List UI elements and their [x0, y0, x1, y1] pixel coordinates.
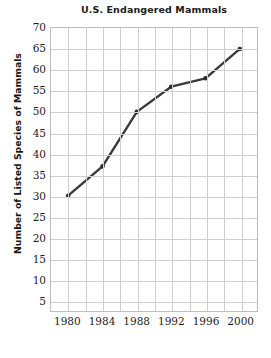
- gridline-vertical: [120, 28, 121, 311]
- y-axis-tick-label: 70: [2, 22, 46, 33]
- y-axis-tick-label: 50: [2, 106, 46, 117]
- gridline-horizontal: [51, 49, 257, 50]
- gridline-vertical: [207, 28, 208, 311]
- y-axis-tick-label: 55: [2, 85, 46, 96]
- gridline-horizontal: [51, 218, 257, 219]
- gridline-vertical: [86, 28, 87, 311]
- gridline-horizontal: [51, 260, 257, 261]
- gridline-horizontal: [51, 155, 257, 156]
- gridline-horizontal: [51, 239, 257, 240]
- gridline-vertical: [242, 28, 243, 311]
- gridline-horizontal: [51, 197, 257, 198]
- y-axis-tick-label: 45: [2, 128, 46, 139]
- gridline-horizontal: [51, 70, 257, 71]
- chart-title: U.S. Endangered Mammals: [50, 4, 258, 15]
- gridline-vertical: [190, 28, 191, 311]
- plot-area: 1980: 301984: 371988: 501992: 561996: 58…: [50, 27, 258, 312]
- y-axis-tick-label: 35: [2, 170, 46, 181]
- y-axis-tick-label: 10: [2, 275, 46, 286]
- gridline-vertical: [224, 28, 225, 311]
- y-axis-tick-label: 25: [2, 212, 46, 223]
- gridline-vertical: [68, 28, 69, 311]
- gridline-horizontal: [51, 176, 257, 177]
- gridline-vertical: [138, 28, 139, 311]
- gridline-horizontal: [51, 91, 257, 92]
- y-axis-tick-label: 20: [2, 233, 46, 244]
- y-axis-tick-label: 60: [2, 64, 46, 75]
- gridline-vertical: [155, 28, 156, 311]
- chart-page: U.S. Endangered Mammals Number of Listed…: [0, 0, 271, 358]
- y-axis-tick-label: 30: [2, 191, 46, 202]
- gridline-vertical: [103, 28, 104, 311]
- gridline-horizontal: [51, 302, 257, 303]
- y-axis-tick-label: 40: [2, 149, 46, 160]
- x-axis-tick-labels: 198019841988199219962000: [50, 316, 258, 334]
- y-axis-tick-label: 65: [2, 43, 46, 54]
- gridline-horizontal: [51, 112, 257, 113]
- gridline-vertical: [172, 28, 173, 311]
- y-axis-tick-label: 15: [2, 254, 46, 265]
- gridline-horizontal: [51, 281, 257, 282]
- gridline-horizontal: [51, 134, 257, 135]
- y-axis-tick-label: 5: [2, 296, 46, 307]
- y-axis-tick-labels: 706560555045403530252015105: [0, 27, 46, 312]
- x-axis-tick-label: 2000: [219, 316, 263, 327]
